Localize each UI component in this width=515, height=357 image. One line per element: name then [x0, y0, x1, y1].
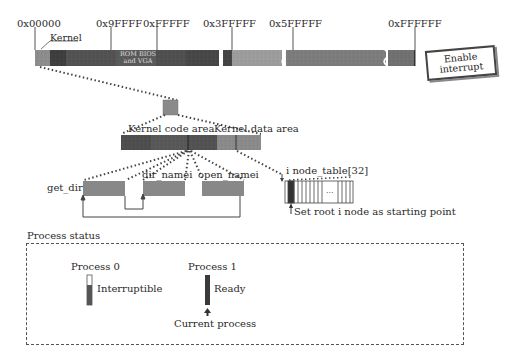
process-status-title: Process status: [27, 231, 100, 241]
address-label-0xffffff: 0xFFFFFF: [388, 19, 442, 29]
process-1-label: Process 1: [188, 262, 237, 272]
rom-bios-label: ROM BIOS and VGA: [118, 51, 158, 64]
address-label-0x00000: 0x00000: [17, 19, 61, 29]
process-0-label: Process 0: [71, 262, 120, 272]
inode-root-note: Set root i node as starting point: [294, 207, 456, 217]
open-namei-block: [202, 181, 244, 196]
get-dir-block: [83, 181, 125, 196]
memory-bar: [35, 50, 416, 66]
kernel-label: Kernel: [50, 33, 82, 43]
inode-table: [285, 181, 353, 203]
enable-interrupt-box: Enable interrupt: [425, 45, 497, 81]
process-1-state: Ready: [214, 284, 245, 294]
address-label-0x9ffff: 0x9FFFF: [96, 19, 142, 29]
flow-lines: [81, 194, 240, 217]
address-label-0xfffff: 0xFFFFF: [143, 19, 190, 29]
zoom-line: [40, 67, 177, 100]
get-dir-label: get_dir: [47, 183, 83, 193]
address-label-0x5fffff: 0x5FFFFF: [269, 19, 322, 29]
process-status-box: [26, 243, 464, 345]
kernel-square: [163, 100, 178, 115]
address-ticks: [35, 27, 415, 50]
dir-namei-block: [143, 181, 185, 196]
rom-bios-line2: and VGA: [118, 58, 158, 65]
inode-table-ellipsis: ...: [326, 187, 334, 195]
kernel-code-area-label: Kernel code area: [128, 124, 214, 134]
current-process-label: Current process: [174, 319, 256, 329]
kernel-area-bar: [121, 135, 261, 150]
inode-table-label: i node_table[32]: [286, 166, 368, 176]
dir-namei-label: dir_namei: [142, 170, 192, 180]
open-namei-label: open_namei: [198, 170, 259, 180]
enable-interrupt-line2: interrupt: [439, 61, 483, 75]
kernel-data-area-label: Kernel data area: [214, 124, 299, 134]
address-label-0x3fffff: 0x3FFFFF: [203, 19, 256, 29]
process-0-state: Interruptible: [97, 284, 162, 294]
